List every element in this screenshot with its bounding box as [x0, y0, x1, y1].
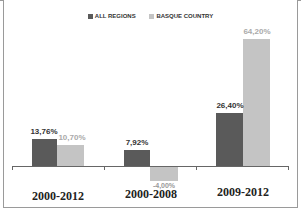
category-label: 2000-2012: [18, 189, 98, 204]
value-label: 64,20%: [237, 27, 277, 36]
bar-basque-2000-2012: [57, 145, 84, 166]
swatch-all-regions-icon: [88, 14, 93, 19]
x-axis-tick: [288, 166, 289, 170]
x-axis-tick: [12, 166, 13, 170]
bar-all-regions-2009-2012: [216, 113, 243, 166]
category-label: 2009-2012: [203, 185, 283, 200]
chart-legend: ALL REGIONS BASQUE COUNTRY: [0, 13, 301, 20]
value-label: 26,40%: [210, 101, 250, 110]
legend-item-basque-country: BASQUE COUNTRY: [149, 13, 213, 19]
legend-item-all-regions: ALL REGIONS: [88, 13, 136, 19]
bar-all-regions-2000-2012: [32, 139, 57, 166]
legend-label: BASQUE COUNTRY: [156, 14, 213, 20]
category-label: 2000-2008: [111, 187, 191, 202]
x-axis: [12, 166, 289, 167]
x-axis-tick: [104, 166, 105, 170]
value-label: 7,92%: [117, 138, 157, 147]
swatch-basque-country-icon: [149, 14, 154, 19]
x-axis-tick: [196, 166, 197, 170]
bar-all-regions-2000-2008: [124, 150, 150, 166]
bar-basque-2000-2008: [150, 167, 178, 181]
legend-label: ALL REGIONS: [95, 14, 136, 20]
value-label: 10,70%: [52, 133, 92, 142]
